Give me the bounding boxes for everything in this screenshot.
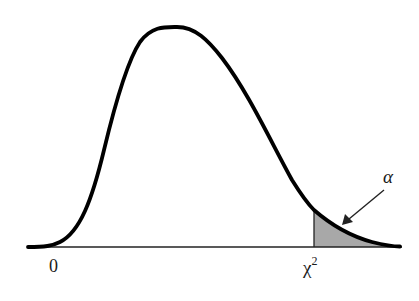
origin-label: 0 <box>49 256 58 277</box>
tail-area-shading <box>314 210 400 247</box>
alpha-arrow-head <box>342 214 353 225</box>
chi-superscript: 2 <box>311 254 317 268</box>
critical-value-label: χ2 <box>303 256 317 279</box>
distribution-plot <box>0 0 419 301</box>
alpha-arrow-shaft <box>349 190 384 219</box>
alpha-label: α <box>383 166 393 188</box>
density-curve <box>28 27 400 247</box>
chi-square-diagram: 0 χ2 α <box>0 0 419 301</box>
